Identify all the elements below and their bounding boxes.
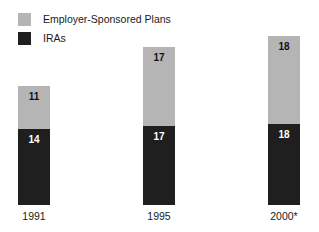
category-label-1995: 1995 — [129, 210, 189, 222]
category-label-2000: 2000* — [254, 210, 314, 222]
bar-value-employer-1991: 11 — [18, 91, 50, 102]
bar-segment-iras-1995: 17 — [143, 126, 175, 205]
bar-segment-iras-1991: 14 — [18, 129, 50, 205]
bar-segment-employer-2000: 18 — [268, 36, 300, 124]
bar-segment-employer-1991: 11 — [18, 86, 50, 129]
stacked-bar-1991: 11 14 — [18, 86, 50, 205]
category-label-1991: 1991 — [4, 210, 64, 222]
bar-value-iras-1995: 17 — [143, 131, 175, 142]
bar-segment-iras-2000: 18 — [268, 124, 300, 205]
stacked-bar-2000: 18 18 — [268, 36, 300, 205]
bar-value-employer-2000: 18 — [268, 41, 300, 52]
bar-value-iras-2000: 18 — [268, 129, 300, 140]
bar-value-employer-1995: 17 — [143, 52, 175, 63]
stacked-bar-chart: Employer-Sponsored Plans IRAs 11 14 1991 — [0, 0, 319, 232]
bar-segment-employer-1995: 17 — [143, 47, 175, 126]
bar-value-iras-1991: 14 — [18, 134, 50, 145]
stacked-bar-1995: 17 17 — [143, 47, 175, 205]
chart-plot-area: 11 14 1991 17 17 1995 — [0, 0, 319, 232]
